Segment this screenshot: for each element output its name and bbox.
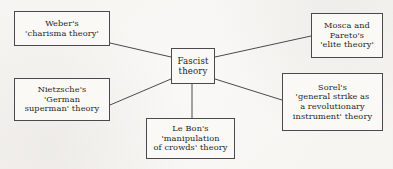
node-lebon-label: Le Bon's 'manipulation of crowds' theory <box>152 124 230 153</box>
edge-nietzsche-to-center <box>110 79 171 105</box>
node-nietzsche-german-superman-theory[interactable]: Nietzsche's 'German superman' theory <box>14 78 110 121</box>
node-lebon-manipulation-of-crowds-theory[interactable]: Le Bon's 'manipulation of crowds' theory <box>146 118 235 159</box>
node-weber-label: Weber's 'charisma theory' <box>23 19 101 38</box>
edge-center-to-mosca <box>215 36 311 57</box>
node-nietzsche-label: Nietzsche's 'German superman' theory <box>23 85 102 114</box>
edge-center-to-sorel <box>215 79 282 100</box>
edge-weber-to-center <box>110 43 171 57</box>
concept-diagram: Weber's 'charisma theory' Nietzsche's 'G… <box>0 0 393 169</box>
node-sorel-label: Sorel's 'general strike as a revolutiona… <box>291 83 374 122</box>
node-weber-charisma-theory[interactable]: Weber's 'charisma theory' <box>14 11 110 46</box>
node-mosca-pareto-elite-theory[interactable]: Mosca and Pareto's 'elite theory' <box>311 13 383 58</box>
node-sorel-general-strike-theory[interactable]: Sorel's 'general strike as a revolutiona… <box>282 73 383 131</box>
node-fascist-theory[interactable]: Fascist theory <box>171 48 215 84</box>
node-mosca-label: Mosca and Pareto's 'elite theory' <box>318 21 376 50</box>
node-fascist-theory-label: Fascist theory <box>175 56 210 76</box>
